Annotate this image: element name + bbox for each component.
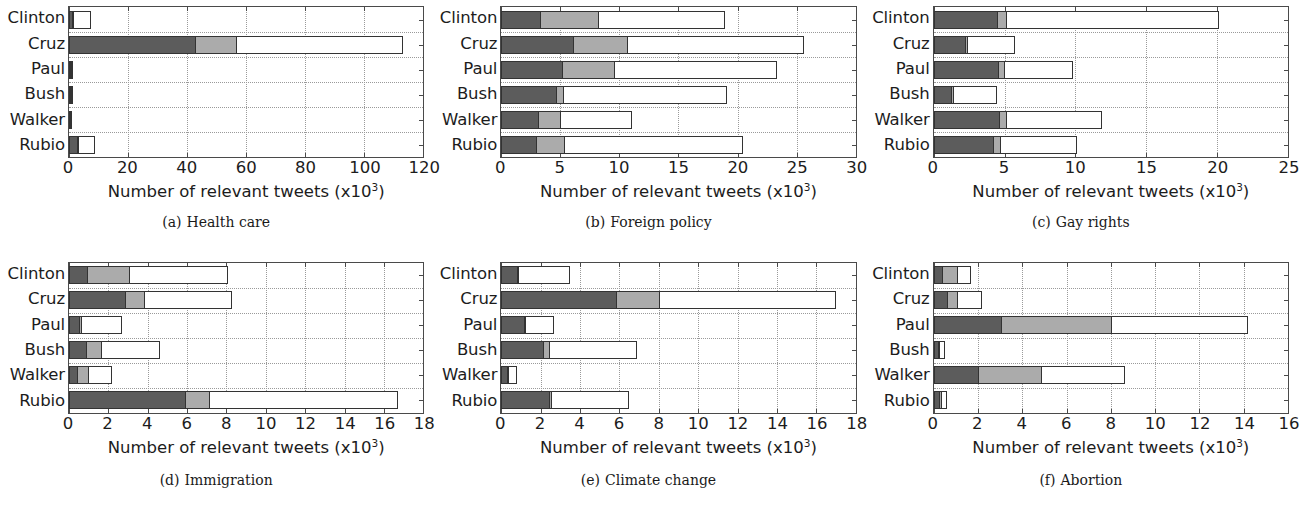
bar-row bbox=[501, 32, 855, 57]
plot-area: ClintonCruzPaulBushWalkerRubio0246810121… bbox=[432, 262, 856, 420]
x-tick-label: 16 bbox=[807, 416, 828, 433]
bar-segment-1 bbox=[70, 267, 87, 283]
x-axis-title-tail: ) bbox=[1243, 182, 1249, 201]
bar-segment-3 bbox=[518, 267, 570, 283]
stacked-bar bbox=[69, 341, 160, 359]
stacked-bar bbox=[501, 366, 517, 384]
y-tick-label: Rubio bbox=[432, 133, 500, 158]
bar-segment-3 bbox=[101, 342, 159, 358]
y-tick-label: Walker bbox=[432, 363, 500, 388]
x-tick-label: 5 bbox=[999, 160, 1010, 177]
bar-segment-1 bbox=[935, 112, 999, 128]
x-tick-label: 14 bbox=[767, 416, 788, 433]
y-axis-tick-labels: ClintonCruzPaulBushWalkerRubio bbox=[0, 6, 68, 158]
x-tick-label: 0 bbox=[63, 416, 74, 433]
bar-segment-1 bbox=[70, 37, 195, 53]
bar-row bbox=[69, 32, 423, 57]
x-tick-label: 10 bbox=[609, 160, 630, 177]
bar-segment-2 bbox=[978, 367, 1040, 383]
bar-segment-1 bbox=[70, 137, 77, 153]
bar-segment-3 bbox=[1006, 112, 1101, 128]
panel-caption: (b)Foreign policy bbox=[432, 214, 864, 230]
x-tick-label: 20 bbox=[1207, 160, 1228, 177]
x-tick-label: 6 bbox=[182, 416, 193, 433]
stacked-bar bbox=[69, 391, 398, 409]
y-tick-label: Bush bbox=[0, 82, 68, 107]
bar-segment-3 bbox=[563, 87, 726, 103]
axes-frame bbox=[68, 262, 424, 414]
y-tick-label: Walker bbox=[0, 363, 68, 388]
y-tick-label: Cruz bbox=[432, 31, 500, 56]
bar-row bbox=[69, 107, 423, 132]
bar-segment-1 bbox=[502, 12, 539, 28]
x-axis-tick-labels: 0510152025 bbox=[933, 160, 1289, 182]
bar-series bbox=[69, 263, 423, 413]
axes-frame bbox=[933, 6, 1289, 158]
x-tick-label: 25 bbox=[787, 160, 808, 177]
x-tick-label: 4 bbox=[574, 416, 585, 433]
bar-segment-2 bbox=[538, 112, 560, 128]
bar-row bbox=[934, 132, 1288, 157]
x-tick-mark-top bbox=[423, 6, 424, 11]
y-tick-label: Paul bbox=[432, 312, 500, 337]
stacked-bar bbox=[934, 266, 972, 284]
x-axis-tick-labels: 024681012141618 bbox=[500, 416, 856, 438]
chart-panel-immigration: ClintonCruzPaulBushWalkerRubio0246810121… bbox=[0, 258, 432, 515]
stacked-bar bbox=[934, 36, 1015, 54]
bar-row bbox=[69, 7, 423, 32]
bar-segment-3 bbox=[71, 62, 72, 78]
y-tick-label: Paul bbox=[865, 312, 933, 337]
bar-segment-1 bbox=[70, 342, 86, 358]
bar-segment-3 bbox=[525, 317, 553, 333]
bar-row bbox=[501, 388, 855, 413]
y-tick-label: Rubio bbox=[865, 133, 933, 158]
bar-segment-1 bbox=[70, 317, 79, 333]
y-tick-label: Bush bbox=[0, 337, 68, 362]
y-tick-label: Bush bbox=[865, 82, 933, 107]
bar-segment-3 bbox=[627, 37, 803, 53]
bar-segment-3 bbox=[129, 267, 227, 283]
x-tick-label: 2 bbox=[102, 416, 113, 433]
bar-segment-3 bbox=[78, 137, 94, 153]
axes-frame bbox=[500, 262, 856, 414]
stacked-bar bbox=[69, 266, 228, 284]
bar-segment-1 bbox=[502, 62, 562, 78]
bar-row bbox=[69, 288, 423, 313]
y-tick-label: Clinton bbox=[865, 262, 933, 287]
bar-row bbox=[934, 363, 1288, 388]
stacked-bar bbox=[934, 86, 997, 104]
bar-segment-2 bbox=[999, 112, 1006, 128]
y-tick-label: Bush bbox=[432, 82, 500, 107]
panel-caption-text: Abortion bbox=[1061, 472, 1123, 488]
panel-caption: (e)Climate change bbox=[432, 472, 864, 488]
bar-segment-3 bbox=[508, 367, 516, 383]
stacked-bar bbox=[934, 111, 1103, 129]
x-axis-tick-labels: 0246810121416 bbox=[933, 416, 1289, 438]
x-tick-label: 12 bbox=[1189, 416, 1210, 433]
bar-segment-3 bbox=[659, 292, 835, 308]
x-axis-title-exponent: 3 bbox=[804, 181, 811, 193]
panel-caption: (a)Health care bbox=[0, 214, 432, 230]
y-tick-label: Cruz bbox=[432, 287, 500, 312]
x-tick-label: 10 bbox=[255, 416, 276, 433]
panel-caption-label: (e) bbox=[581, 472, 600, 488]
stacked-bar bbox=[69, 86, 73, 104]
bar-segment-1 bbox=[502, 392, 549, 408]
bar-row bbox=[501, 313, 855, 338]
bar-segment-2 bbox=[947, 292, 957, 308]
stacked-bar bbox=[934, 391, 947, 409]
x-tick-label: 12 bbox=[727, 416, 748, 433]
panel-caption-label: (f) bbox=[1039, 472, 1055, 488]
x-tick-label: 14 bbox=[335, 416, 356, 433]
stacked-bar bbox=[501, 36, 803, 54]
bar-segment-3 bbox=[73, 12, 90, 28]
bar-segment-1 bbox=[935, 62, 998, 78]
x-axis-title-tail: ) bbox=[378, 438, 384, 457]
bar-row bbox=[501, 338, 855, 363]
bar-segment-3 bbox=[209, 392, 397, 408]
y-tick-label: Rubio bbox=[0, 133, 68, 158]
panel-caption: (f)Abortion bbox=[865, 472, 1297, 488]
x-tick-label: 0 bbox=[927, 160, 938, 177]
x-tick-label: 20 bbox=[117, 160, 138, 177]
bar-segment-2 bbox=[562, 62, 614, 78]
